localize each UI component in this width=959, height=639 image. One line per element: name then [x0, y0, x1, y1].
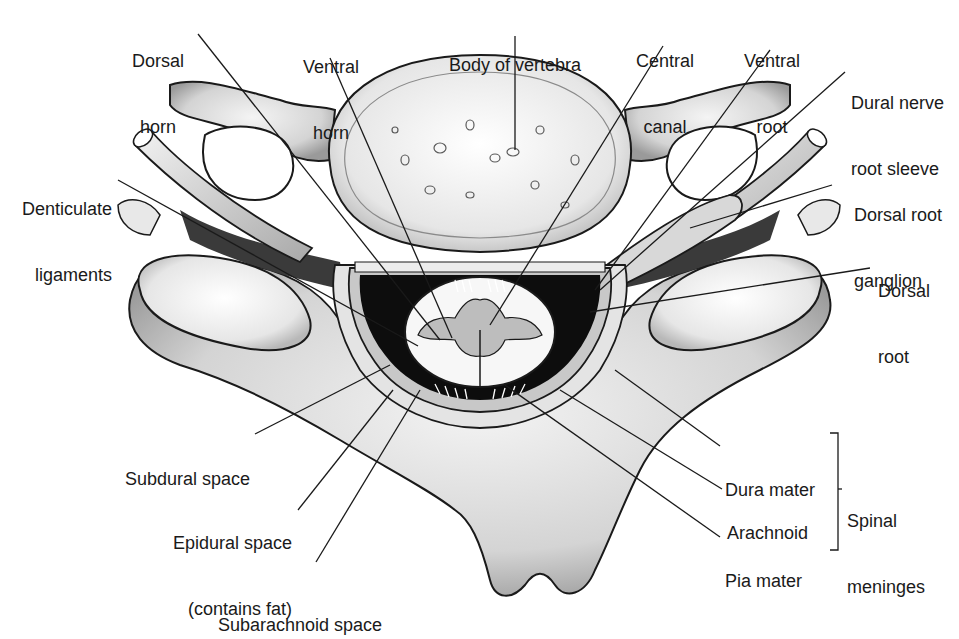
label-body-of-vertebra-line1: Body of vertebra	[425, 54, 605, 76]
label-spinal-meninges: Spinal meninges	[847, 466, 925, 639]
label-drg-line1: Dorsal root	[854, 204, 942, 226]
label-subarachnoid-line1: Subarachnoid space	[218, 614, 382, 636]
label-ventral-root: Ventral root	[732, 6, 812, 182]
label-spinal-meninges-line1: Spinal	[847, 510, 925, 532]
label-denticulate-ligaments: Denticulate ligaments	[0, 154, 112, 330]
label-subarachnoid-space: Subarachnoid space	[218, 570, 382, 639]
label-pia-mater: Pia mater	[725, 526, 802, 636]
label-epidural-line1: Epidural space	[140, 532, 292, 554]
label-dorsal-horn-line1: Dorsal	[110, 50, 206, 72]
label-ventral-horn: Ventral horn	[286, 12, 376, 188]
label-denticulate-line1: Denticulate	[0, 198, 112, 220]
label-central-canal-line1: Central	[625, 50, 705, 72]
label-spinal-meninges-line2: meninges	[847, 576, 925, 598]
label-ventral-root-line1: Ventral	[732, 50, 812, 72]
label-pia-mater-line1: Pia mater	[725, 570, 802, 592]
label-subdural-line1: Subdural space	[90, 468, 250, 490]
label-dorsal-root: Dorsal root	[878, 236, 930, 412]
label-central-canal: Central canal	[625, 6, 705, 182]
label-central-canal-line2: canal	[625, 116, 705, 138]
label-dural-sleeve-line1: Dural nerve	[851, 92, 944, 114]
label-ventral-root-line2: root	[732, 116, 812, 138]
label-ventral-horn-line2: horn	[286, 122, 376, 144]
label-dorsal-root-line2: root	[878, 346, 930, 368]
label-denticulate-line2: ligaments	[0, 264, 112, 286]
label-dorsal-horn: Dorsal horn	[110, 6, 206, 182]
label-ventral-horn-line1: Ventral	[286, 56, 376, 78]
label-dorsal-root-line1: Dorsal	[878, 280, 930, 302]
label-body-of-vertebra: Body of vertebra	[425, 10, 605, 120]
label-dorsal-horn-line2: horn	[110, 116, 206, 138]
